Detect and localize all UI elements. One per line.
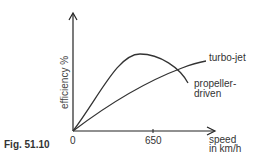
tick-label-650: 650 (145, 136, 162, 146)
x-axis-label-line2: in km/h (209, 144, 241, 154)
curve-rising (73, 61, 206, 131)
figure-caption: Fig. 51.10 (4, 139, 50, 150)
series-label-turbo-jet: turbo-jet (209, 53, 246, 63)
series-label-propeller-line2: driven (194, 89, 221, 99)
y-axis-label: efficiency % (59, 55, 70, 111)
origin-label: 0 (70, 136, 76, 146)
